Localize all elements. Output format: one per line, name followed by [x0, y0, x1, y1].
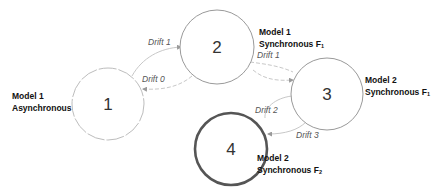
model-label-node-4-subscript: 2 — [319, 169, 322, 175]
model-label-node-3-text: Synchronous F — [365, 87, 427, 97]
model-label-node-4: Model 2 Synchronous F2 — [257, 152, 322, 176]
model-label-node-2-line1: Model 1 — [259, 26, 324, 38]
edge-label-3-to-4-a: Drift 2 — [255, 105, 278, 115]
model-label-node-4-line2: Synchronous F2 — [257, 164, 322, 176]
model-label-node-3-subscript: 1 — [427, 91, 430, 97]
node-2[interactable]: 2 — [180, 10, 254, 84]
model-label-node-2-subscript: 1 — [321, 43, 324, 49]
model-label-node-1-line1: Model 1 — [12, 90, 72, 102]
node-3[interactable]: 3 — [291, 58, 363, 130]
node-4-label: 4 — [226, 140, 235, 159]
node-2-label: 2 — [212, 38, 221, 57]
edge-label-3-to-4-b: Drift 3 — [296, 130, 319, 140]
edge-label-2-to-3: Drift 1 — [257, 50, 280, 60]
model-label-node-3-line1: Model 2 — [365, 74, 430, 86]
model-label-node-2-text: Synchronous F — [259, 39, 321, 49]
edge-label-1-to-2: Drift 1 — [148, 37, 171, 47]
model-label-node-3-line2: Synchronous F1 — [365, 86, 430, 98]
node-1-label: 1 — [103, 95, 112, 114]
node-1[interactable]: 1 — [72, 68, 144, 140]
model-label-node-1-line2: Asynchronous — [12, 102, 72, 114]
edge-2-to-3-a — [250, 62, 293, 72]
edge-1-to-2 — [132, 47, 181, 76]
model-label-node-3: Model 2 Synchronous F1 — [365, 74, 430, 98]
edge-2-to-3-b — [253, 70, 293, 80]
model-label-node-2-line2: Synchronous F1 — [259, 38, 324, 50]
model-label-node-4-text: Synchronous F — [257, 165, 319, 175]
model-label-node-4-line1: Model 2 — [257, 152, 322, 164]
edge-label-2-to-1: Drift 0 — [142, 74, 165, 84]
model-label-node-2: Model 1 Synchronous F1 — [259, 26, 324, 50]
node-3-label: 3 — [322, 85, 331, 104]
model-label-node-1: Model 1 Asynchronous — [12, 90, 72, 114]
